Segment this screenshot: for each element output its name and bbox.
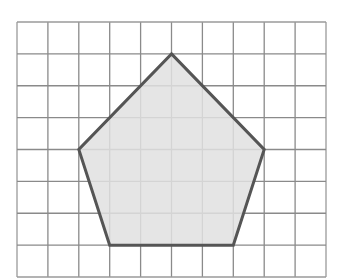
grid-diagram: [0, 0, 337, 280]
pentagon-shape: [79, 54, 264, 245]
diagram-canvas: [0, 0, 337, 280]
